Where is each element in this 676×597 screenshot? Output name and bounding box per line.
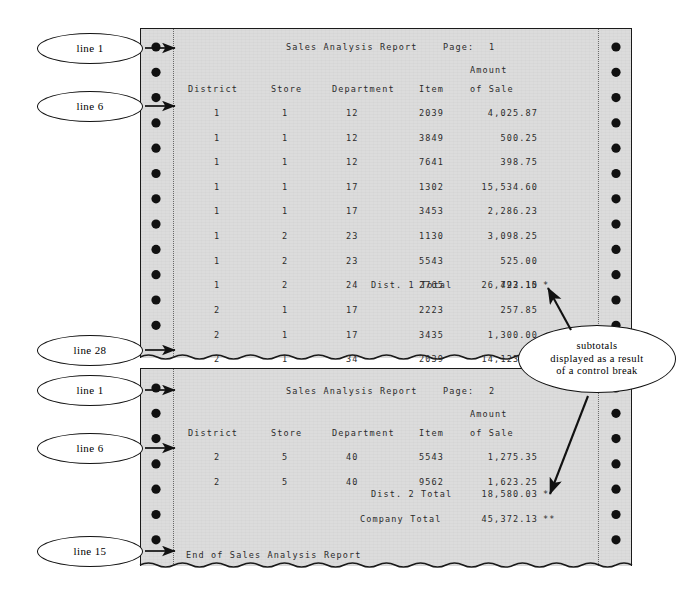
cell-store: 5: [282, 478, 288, 487]
cell-district: 2: [214, 331, 220, 340]
page1-header-district: District: [188, 85, 238, 94]
callout-line-1-top-label: line 1: [76, 42, 103, 55]
cell-district: 1: [214, 183, 220, 192]
cell-store: 2: [282, 232, 288, 241]
cell-amount: 3,098.25: [404, 232, 538, 241]
page1-header-store: Store: [271, 85, 302, 94]
cell-amount: 1,300.00: [404, 331, 538, 340]
callout-line-1-top: line 1: [37, 33, 143, 64]
page1-subtotal-amount: 26,792.10: [404, 281, 538, 290]
cell-amount: 4,025.87: [404, 109, 538, 118]
page2-header-amount-line2: of Sale: [470, 429, 514, 438]
callout-line-15: line 15: [37, 536, 143, 567]
cell-department: 23: [346, 257, 359, 266]
cell-store: 1: [282, 134, 288, 143]
cell-department: 12: [346, 158, 359, 167]
page2-grand-total-marker: **: [543, 515, 556, 524]
callout-line-15-label: line 15: [73, 545, 106, 558]
cell-store: 1: [282, 183, 288, 192]
right-perforation-line-page-2: [598, 369, 599, 566]
callout-line-6-top-label: line 6: [76, 100, 103, 113]
callout-line-28: line 28: [37, 335, 143, 366]
cell-district: 2: [214, 306, 220, 315]
cell-amount: 2,286.23: [404, 207, 538, 216]
cell-department: 40: [346, 478, 359, 487]
page2-header-department: Department: [332, 429, 395, 438]
callout-line-6-top: line 6: [37, 91, 143, 122]
cell-store: 2: [282, 281, 288, 290]
cell-store: 1: [282, 331, 288, 340]
page2-header-store: Store: [271, 429, 302, 438]
cell-amount: 15,534.60: [404, 183, 538, 192]
cell-district: 1: [214, 207, 220, 216]
cell-district: 2: [214, 355, 220, 364]
cell-department: 12: [346, 134, 359, 143]
page1-header-item: Item: [419, 85, 444, 94]
callout-line-1-bottom: line 1: [37, 375, 143, 406]
cell-store: 1: [282, 109, 288, 118]
cell-department: 17: [346, 331, 359, 340]
callout-subtotals-text: subtotals displayed as a result of a con…: [550, 340, 643, 377]
cell-district: 1: [214, 109, 220, 118]
cell-district: 1: [214, 134, 220, 143]
page2-page-label: Page:: [443, 387, 474, 396]
page2-grand-total-amount: 45,372.13: [404, 515, 538, 524]
cell-district: 2: [214, 478, 220, 487]
right-perforation-line-page-1: [598, 29, 599, 358]
callout-line-1-bottom-label: line 1: [76, 384, 103, 397]
cell-department: 17: [346, 183, 359, 192]
cell-amount: 1,275.35: [404, 453, 538, 462]
cell-district: 2: [214, 453, 220, 462]
cell-department: 17: [346, 207, 359, 216]
page1-subtotal-marker: *: [543, 281, 549, 290]
cell-amount: 398.75: [404, 158, 538, 167]
left-perforation-line-page-2: [173, 369, 174, 566]
page1-title: Sales Analysis Report: [286, 43, 418, 52]
page2-header-item: Item: [419, 429, 444, 438]
page1-header-department: Department: [332, 85, 395, 94]
cell-district: 1: [214, 281, 220, 290]
page2-header-district: District: [188, 429, 238, 438]
cell-store: 1: [282, 355, 288, 364]
callout-line-6-bottom-label: line 6: [76, 442, 103, 455]
page2-header-amount-line1: Amount: [470, 410, 508, 419]
page1-page-label: Page:: [443, 43, 474, 52]
callout-subtotals: subtotals displayed as a result of a con…: [518, 325, 676, 393]
cell-district: 1: [214, 232, 220, 241]
callout-line-6-bottom: line 6: [37, 433, 143, 464]
continuous-form-page-2: [140, 368, 632, 566]
page1-page-number: 1: [489, 43, 495, 52]
callout-subtotals-line-3: of a control break: [556, 365, 638, 376]
page2-page-number: 2: [489, 387, 495, 396]
callout-line-28-label: line 28: [73, 344, 106, 357]
left-perforation-line-page-1: [173, 29, 174, 358]
cell-amount: 1,623.25: [404, 478, 538, 487]
cell-department: 34: [346, 355, 359, 364]
cell-amount: 525.00: [404, 257, 538, 266]
cell-store: 5: [282, 453, 288, 462]
page1-header-amount-line1: Amount: [470, 66, 508, 75]
cell-department: 17: [346, 306, 359, 315]
cell-department: 12: [346, 109, 359, 118]
cell-district: 1: [214, 257, 220, 266]
cell-store: 1: [282, 207, 288, 216]
cell-district: 1: [214, 158, 220, 167]
page2-subtotal-amount: 18,580.03: [404, 490, 538, 499]
cell-amount: 257.85: [404, 306, 538, 315]
cell-store: 2: [282, 257, 288, 266]
cell-department: 23: [346, 232, 359, 241]
callout-subtotals-line-2: displayed as a result: [550, 353, 643, 364]
page2-footer: End of Sales Analysis Report: [186, 551, 362, 560]
page2-subtotal-marker: *: [543, 490, 549, 499]
cell-department: 24: [346, 281, 359, 290]
page1-header-amount-line2: of Sale: [470, 85, 514, 94]
page2-title: Sales Analysis Report: [286, 387, 418, 396]
callout-subtotals-line-1: subtotals: [577, 340, 618, 351]
cell-amount: 500.25: [404, 134, 538, 143]
cell-store: 1: [282, 306, 288, 315]
cell-store: 1: [282, 158, 288, 167]
cell-department: 40: [346, 453, 359, 462]
